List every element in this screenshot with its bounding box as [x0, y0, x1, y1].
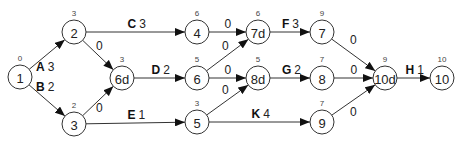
node-3: 32 — [62, 101, 86, 136]
event-time: 5 — [256, 55, 261, 64]
activity-label: B2 — [36, 80, 55, 94]
event-time: 6 — [256, 9, 261, 18]
network-diagram: A3B2C300D2E10000F3G2K4000H1 1023326d3466… — [0, 0, 468, 144]
dummy-label: 0 — [96, 101, 103, 115]
activity-label: G2 — [282, 63, 301, 77]
event-time: 10 — [438, 55, 447, 64]
activity-label: A3 — [36, 60, 55, 74]
dummy-label: 0 — [222, 83, 229, 97]
node-label: 10 — [435, 72, 449, 87]
event-time: 7 — [320, 55, 325, 64]
node-10d: 10d9 — [373, 55, 397, 90]
node-label: 8 — [318, 72, 325, 87]
event-time: 3 — [195, 99, 200, 108]
event-time: 5 — [195, 55, 200, 64]
activity-label: K4 — [252, 107, 271, 121]
activity-label: D2 — [152, 63, 171, 77]
node-4: 46 — [185, 9, 209, 44]
edge-5-9: K4 — [209, 107, 310, 122]
edge-3-6d: 0 — [83, 86, 114, 115]
node-label: 7 — [318, 26, 325, 41]
node-label: 7d — [251, 26, 265, 41]
arrow-icon — [86, 122, 185, 124]
node-label: 1 — [16, 71, 23, 86]
node-label: 8d — [251, 72, 265, 87]
edge-1-3: B2 — [29, 80, 65, 116]
event-time: 3 — [120, 55, 125, 64]
node-10: 1010 — [430, 55, 454, 90]
node-label: 9 — [318, 116, 325, 131]
node-label: 6d — [115, 72, 129, 87]
activity-label: E1 — [128, 108, 146, 122]
node-6d: 6d3 — [110, 55, 134, 90]
edge-6d-6: D2 — [134, 63, 185, 78]
node-label: 3 — [70, 118, 77, 133]
node-6: 65 — [185, 55, 209, 90]
node-label: 10d — [374, 72, 396, 87]
event-time: 2 — [72, 101, 77, 110]
dummy-label: 0 — [225, 17, 232, 31]
edge-4-7d: 0 — [209, 17, 246, 32]
event-time: 7 — [320, 99, 325, 108]
node-7: 79 — [310, 9, 334, 44]
edge-8d-8: G2 — [270, 63, 310, 78]
dummy-label: 0 — [96, 39, 103, 53]
activity-label: F3 — [282, 17, 299, 31]
node-label: 6 — [193, 72, 200, 87]
event-time: 0 — [18, 54, 23, 63]
edge-5-8d: 0 — [207, 83, 249, 115]
node-1: 10 — [8, 54, 32, 89]
node-9: 97 — [310, 99, 334, 134]
node-label: 5 — [193, 116, 200, 131]
node-label: 2 — [70, 26, 77, 41]
edge-2-4: C3 — [86, 17, 185, 32]
dummy-label: 0 — [225, 63, 232, 77]
dummy-label: 0 — [350, 105, 357, 119]
activity-label: C3 — [128, 17, 147, 31]
event-time: 9 — [383, 55, 388, 64]
node-2: 23 — [62, 9, 86, 44]
node-5: 53 — [185, 99, 209, 134]
node-8: 87 — [310, 55, 334, 90]
edge-9-10d: 0 — [332, 85, 375, 119]
edge-1-2: A3 — [29, 40, 65, 74]
edges-layer: A3B2C300D2E10000F3G2K4000H1 — [29, 17, 430, 124]
node-7d: 7d6 — [246, 9, 270, 44]
dummy-label: 0 — [350, 33, 357, 47]
event-time: 6 — [195, 9, 200, 18]
event-time: 9 — [320, 9, 325, 18]
node-label: 4 — [193, 26, 200, 41]
event-time: 3 — [72, 9, 77, 18]
activity-label: H1 — [406, 63, 425, 77]
edge-2-6d: 0 — [83, 39, 114, 70]
edge-7d-7: F3 — [270, 17, 310, 32]
edge-10d-10: H1 — [397, 63, 430, 78]
dummy-label: 0 — [351, 63, 358, 77]
node-8d: 8d5 — [246, 55, 270, 90]
dummy-label: 0 — [222, 39, 229, 53]
